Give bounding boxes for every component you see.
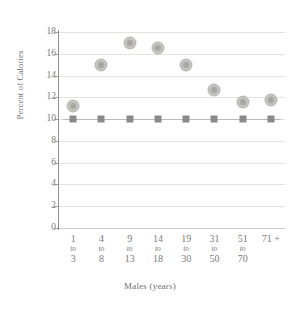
gridline — [59, 54, 285, 55]
plot-area — [59, 32, 285, 228]
data-point-square — [98, 116, 105, 123]
gridline — [59, 141, 285, 142]
data-point-circle — [68, 101, 79, 112]
y-tick-mark — [54, 76, 58, 77]
y-tick-mark — [54, 163, 58, 164]
gridline — [59, 97, 285, 98]
gridline — [59, 32, 285, 33]
series-connector-line — [63, 119, 281, 120]
x-axis-title: Males (years) — [0, 281, 300, 291]
data-point-circle — [265, 94, 276, 105]
data-point-circle — [209, 84, 220, 95]
x-tick-label: 71 + — [254, 233, 288, 245]
data-point-square — [126, 116, 133, 123]
gridline — [59, 206, 285, 207]
data-point-circle — [181, 59, 192, 70]
x-tick-range-start: 71 + — [254, 233, 288, 245]
y-tick-mark — [54, 184, 58, 185]
y-tick-mark — [54, 54, 58, 55]
gridline — [59, 163, 285, 164]
y-tick-mark — [54, 32, 58, 33]
data-point-square — [267, 116, 274, 123]
data-point-square — [211, 116, 218, 123]
y-axis-title: Percent of Calories — [15, 25, 25, 145]
y-axis-tick-labels: 024681012141618 — [36, 0, 56, 311]
gridline — [59, 76, 285, 77]
gridline — [59, 228, 285, 229]
data-point-square — [183, 116, 190, 123]
chart-container: Percent of Calories 024681012141618 1to3… — [0, 0, 300, 311]
data-point-circle — [124, 37, 135, 48]
data-point-square — [70, 116, 77, 123]
y-tick-mark — [54, 119, 58, 120]
x-tick-range-end: 70 — [226, 253, 260, 265]
y-tick-mark — [54, 206, 58, 207]
data-point-circle — [237, 96, 248, 107]
y-tick-mark — [54, 97, 58, 98]
data-point-square — [154, 116, 161, 123]
data-point-square — [239, 116, 246, 123]
data-point-circle — [152, 43, 163, 54]
y-tick-mark — [54, 141, 58, 142]
gridline — [59, 184, 285, 185]
data-point-circle — [96, 59, 107, 70]
x-tick-range-connector: to — [226, 245, 260, 254]
x-axis-tick-labels: 1to34to89to1314to1819to3031to5051to7071 … — [59, 233, 285, 279]
y-tick-mark — [54, 228, 58, 229]
